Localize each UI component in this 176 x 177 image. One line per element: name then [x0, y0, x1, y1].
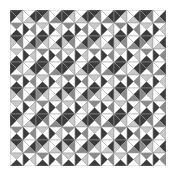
triangle-tile-grid	[10, 10, 166, 166]
tile-pattern-svg	[10, 10, 166, 166]
caption-text	[0, 0, 176, 6]
